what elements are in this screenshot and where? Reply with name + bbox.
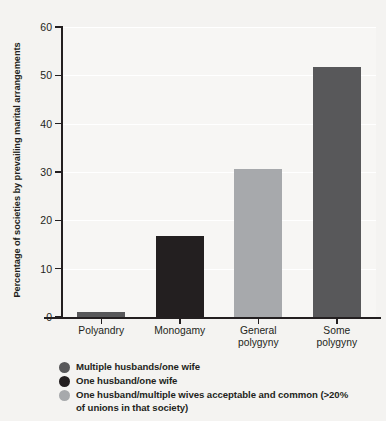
y-axis-tick [55,26,62,28]
legend-swatch-icon [59,376,70,387]
x-axis-label: Somepolygyny [298,325,377,349]
legend-label: One husband/multiple wives acceptable an… [76,389,348,414]
y-axis-tick-label: 20 [30,214,52,226]
y-axis-tick-label: 50 [30,69,52,81]
y-axis-tick [55,171,62,173]
y-axis-tick [55,268,62,270]
y-axis-tick [55,220,62,222]
legend-item: One husband/one wife [59,375,386,388]
x-axis-line [44,317,381,319]
bar-polyandry [77,312,125,317]
y-axis-tick-label: 10 [30,263,52,275]
bar-monogamy [156,236,204,317]
chart-legend: Multiple husbands/one wifeOne husband/on… [59,361,386,416]
y-axis-tick-label: 60 [30,21,52,33]
y-axis-tick-label: 30 [30,166,52,178]
x-axis-tick [179,319,181,324]
legend-item: Multiple husbands/one wife [59,361,386,374]
y-axis-tick-label: 40 [30,118,52,130]
bar-some-polygyny [313,67,361,317]
x-axis-tick [336,319,338,324]
y-axis-tick [55,123,62,125]
bar-general-polygyny [234,169,282,317]
bar-chart-figure: Percentage of societies by prevailing ma… [0,0,386,421]
legend-label: Multiple husbands/one wife [76,361,200,374]
x-axis-tick [258,319,260,324]
y-axis-tick [55,75,62,77]
x-axis-tick [101,319,103,324]
y-axis-title: Percentage of societies by prevailing ma… [8,20,26,320]
legend-swatch-icon [59,362,70,373]
gridline [62,27,376,28]
x-axis-label: Monogamy [141,325,220,337]
x-axis-label: Generalpolygyny [219,325,298,349]
legend-swatch-icon [59,390,70,401]
y-axis-tick-label: 0 [30,311,52,323]
y-axis-tick [55,316,62,318]
legend-item: One husband/multiple wives acceptable an… [59,389,386,414]
y-axis-title-text: Percentage of societies by prevailing ma… [12,42,22,297]
x-axis-label: Polyandry [62,325,141,337]
legend-label: One husband/one wife [76,375,177,388]
